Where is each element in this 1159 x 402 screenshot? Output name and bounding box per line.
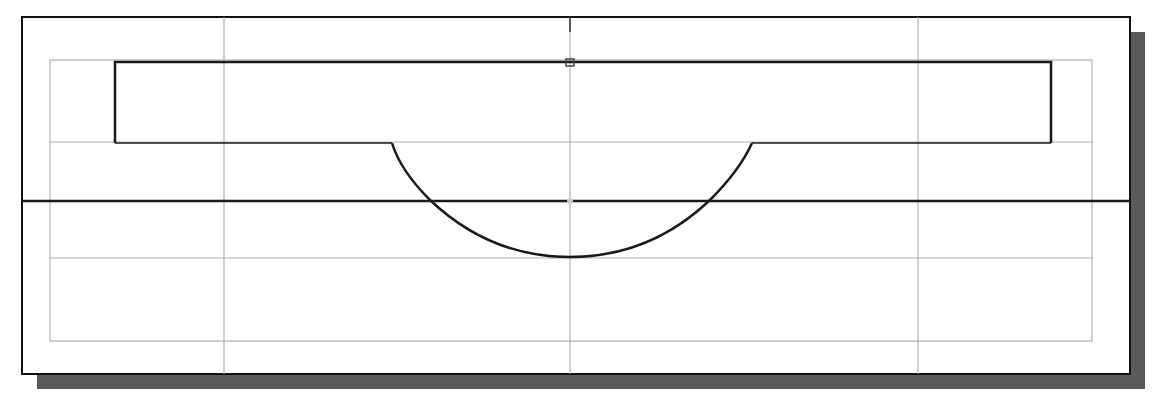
origin-marker-icon[interactable] [567,198,573,204]
sketch-canvas [0,0,1159,402]
drawing-frame [22,17,1130,374]
